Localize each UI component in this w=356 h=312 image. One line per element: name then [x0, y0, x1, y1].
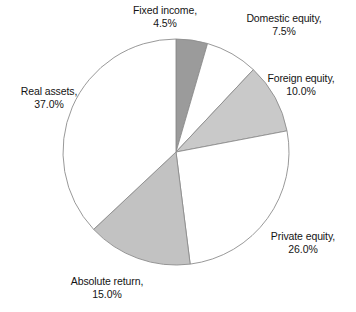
pie-label-real-assets-value: 37.0%	[0, 98, 98, 111]
pie-chart-figure: Fixed income, 4.5% Domestic equity, 7.5%…	[0, 0, 356, 312]
pie-label-fixed-income-name: Fixed income,	[111, 4, 219, 17]
pie-label-domestic-equity-value: 7.5%	[222, 25, 346, 38]
pie-label-domestic-equity: Domestic equity, 7.5%	[222, 12, 346, 37]
pie-label-foreign-equity: Foreign equity, 10.0%	[246, 72, 356, 97]
pie-label-real-assets: Real assets, 37.0%	[0, 85, 98, 110]
pie-label-fixed-income-value: 4.5%	[111, 17, 219, 30]
pie-label-private-equity-value: 26.0%	[250, 243, 356, 256]
pie-label-private-equity: Private equity, 26.0%	[250, 230, 356, 255]
pie-label-real-assets-name: Real assets,	[0, 85, 98, 98]
pie-label-absolute-return-name: Absolute return,	[44, 275, 170, 288]
pie-label-absolute-return-value: 15.0%	[44, 288, 170, 301]
pie-label-absolute-return: Absolute return, 15.0%	[44, 275, 170, 300]
pie-label-foreign-equity-name: Foreign equity,	[246, 72, 356, 85]
pie-label-fixed-income: Fixed income, 4.5%	[111, 4, 219, 29]
pie-label-foreign-equity-value: 10.0%	[246, 85, 356, 98]
pie-chart-svg	[0, 0, 356, 312]
pie-label-domestic-equity-name: Domestic equity,	[222, 12, 346, 25]
pie-label-private-equity-name: Private equity,	[250, 230, 356, 243]
